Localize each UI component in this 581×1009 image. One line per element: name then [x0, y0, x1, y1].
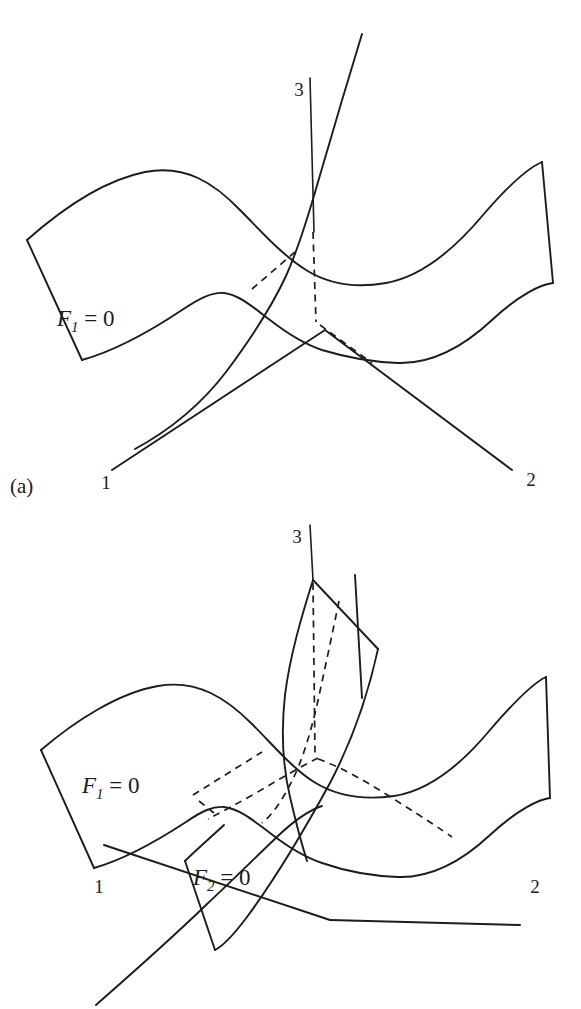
axis-3-label: 3: [294, 79, 304, 100]
surface-f1-front-rim: [82, 283, 553, 363]
surface-f1-label-sub: 1: [71, 319, 79, 335]
hidden-trace-left-dashes: [208, 758, 318, 819]
hidden-axis-1-dashes: [193, 752, 262, 795]
panel-a: 3 1 2 F1 = 0 (a): [0, 0, 581, 504]
surface-f1-label-base: F: [56, 306, 72, 331]
panel-b-hidden-edges: [0, 505, 581, 1009]
axis-2-line: [325, 330, 512, 470]
figure-root: 3 1 2 F1 = 0 (a): [0, 0, 581, 1009]
axis-1-line: [112, 330, 325, 470]
hidden-f1-f2-curve-dashes: [262, 601, 339, 823]
surface-f1-top-rim: [27, 162, 542, 285]
axis-2-label: 2: [526, 469, 536, 490]
hidden-trace-right-dashes: [318, 759, 452, 837]
upper-intersection-curve: [135, 34, 362, 449]
axis-1-label: 1: [101, 472, 111, 493]
panel-b: 3 1 2 F1 = 0 F2 = 0 (b): [0, 505, 581, 1009]
surface-f1-label: F1 = 0: [56, 306, 115, 335]
hidden-axis-2-dashes: [320, 325, 372, 363]
hidden-axis-3-dashes: [313, 232, 316, 322]
surface-f1-label-eq: = 0: [79, 306, 115, 331]
hidden-axis-3-dashes: [313, 583, 315, 755]
hidden-short-dashes: [199, 801, 214, 813]
panel-a-drawing: 3 1 2 F1 = 0: [0, 0, 581, 504]
surface-f1-right-edge: [542, 162, 553, 283]
surface-f1-left-edge: [27, 240, 82, 360]
panel-a-caption: (a): [10, 474, 33, 499]
